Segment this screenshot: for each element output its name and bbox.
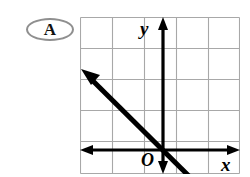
figure-container: A <box>0 0 250 177</box>
graph-svg <box>80 17 240 174</box>
origin-label: O <box>141 151 154 169</box>
part-label: A <box>26 18 74 41</box>
x-axis-label: x <box>221 155 231 174</box>
y-axis-label: y <box>140 19 148 38</box>
part-label-letter: A <box>26 18 74 41</box>
coordinate-plane: y x O <box>80 17 240 174</box>
